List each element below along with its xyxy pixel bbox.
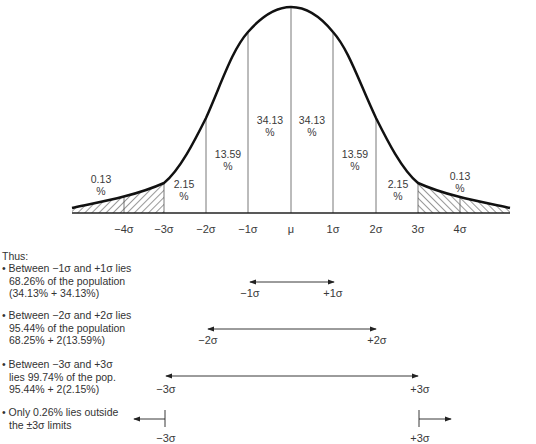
outside-label-minus-3-sigma: −3σ <box>156 432 176 444</box>
note-line: 95.44% of the population <box>2 322 131 335</box>
note-item-3-sigma: • Between −3σ and +3σ lies 99.74% of the… <box>2 358 116 396</box>
region-mu-p1-pct-sign: % <box>307 126 316 138</box>
note-item-outside-3-sigma: • Only 0.26% lies outside the ±3σ limits <box>2 406 118 431</box>
region-m1-mu-percent: 34.13 <box>257 114 283 126</box>
left-tail-percent: 0.13 <box>91 173 112 185</box>
region-p1-p2-pct-sign: % <box>350 160 359 172</box>
note-line: • Only 0.26% lies outside <box>2 406 118 419</box>
axis-label-plus-1-sigma: 1σ <box>327 223 340 235</box>
axis-label-minus-2-sigma: −2σ <box>196 223 216 235</box>
arrow-label-plus-2-sigma: +2σ <box>367 334 387 346</box>
outside-label-plus-3-sigma: +3σ <box>410 432 430 444</box>
note-line: 68.26% of the population <box>2 275 131 288</box>
axis-label-minus-3-sigma: −3σ <box>154 223 174 235</box>
region-m3-m2-pct-sign: % <box>179 190 188 202</box>
right-tail-pct-sign: % <box>455 182 464 194</box>
axis-label-plus-3-sigma: 3σ <box>412 223 425 235</box>
arrow-label-minus-3-sigma: −3σ <box>156 383 176 395</box>
note-item-1-sigma: • Between −1σ and +1σ lies 68.26% of the… <box>2 262 131 300</box>
note-line: • Between −1σ and +1σ lies <box>2 262 131 275</box>
axis-label-plus-2-sigma: 2σ <box>370 223 383 235</box>
region-p2-p3-percent: 2.15 <box>388 178 409 190</box>
axis-label-plus-4-sigma: 4σ <box>454 223 467 235</box>
note-line: • Between −3σ and +3σ <box>2 358 116 371</box>
axis-label-mu: μ <box>288 223 294 235</box>
left-tail-pct-sign: % <box>96 185 105 197</box>
note-line: 95.44% + 2(2.15%) <box>2 383 116 396</box>
notes-heading: Thus: <box>2 250 28 263</box>
arrow-label-plus-3-sigma: +3σ <box>410 383 430 395</box>
note-item-2-sigma: • Between −2σ and +2σ lies 95.44% of the… <box>2 309 131 347</box>
axis-label-minus-4-sigma: −4σ <box>114 223 134 235</box>
region-m1-mu-pct-sign: % <box>265 126 274 138</box>
note-line: 68.25% + 2(13.59%) <box>2 334 131 347</box>
arrow-label-minus-2-sigma: −2σ <box>198 334 218 346</box>
arrow-label-minus-1-sigma: −1σ <box>240 287 260 299</box>
axis-label-minus-1-sigma: −1σ <box>238 223 258 235</box>
right-tail-percent: 0.13 <box>450 170 471 182</box>
region-p1-p2-percent: 13.59 <box>342 148 368 160</box>
region-m3-m2-percent: 2.15 <box>174 178 195 190</box>
note-line: lies 99.74% of the pop. <box>2 371 116 384</box>
note-line: (34.13% + 34.13%) <box>2 287 131 300</box>
region-mu-p1-percent: 34.13 <box>299 114 325 126</box>
note-line: • Between −2σ and +2σ lies <box>2 309 131 322</box>
note-line: the ±3σ limits <box>2 419 118 432</box>
region-m2-m1-pct-sign: % <box>223 160 232 172</box>
arrow-label-plus-1-sigma: +1σ <box>323 287 343 299</box>
region-p2-p3-pct-sign: % <box>393 190 402 202</box>
region-m2-m1-percent: 13.59 <box>215 148 241 160</box>
